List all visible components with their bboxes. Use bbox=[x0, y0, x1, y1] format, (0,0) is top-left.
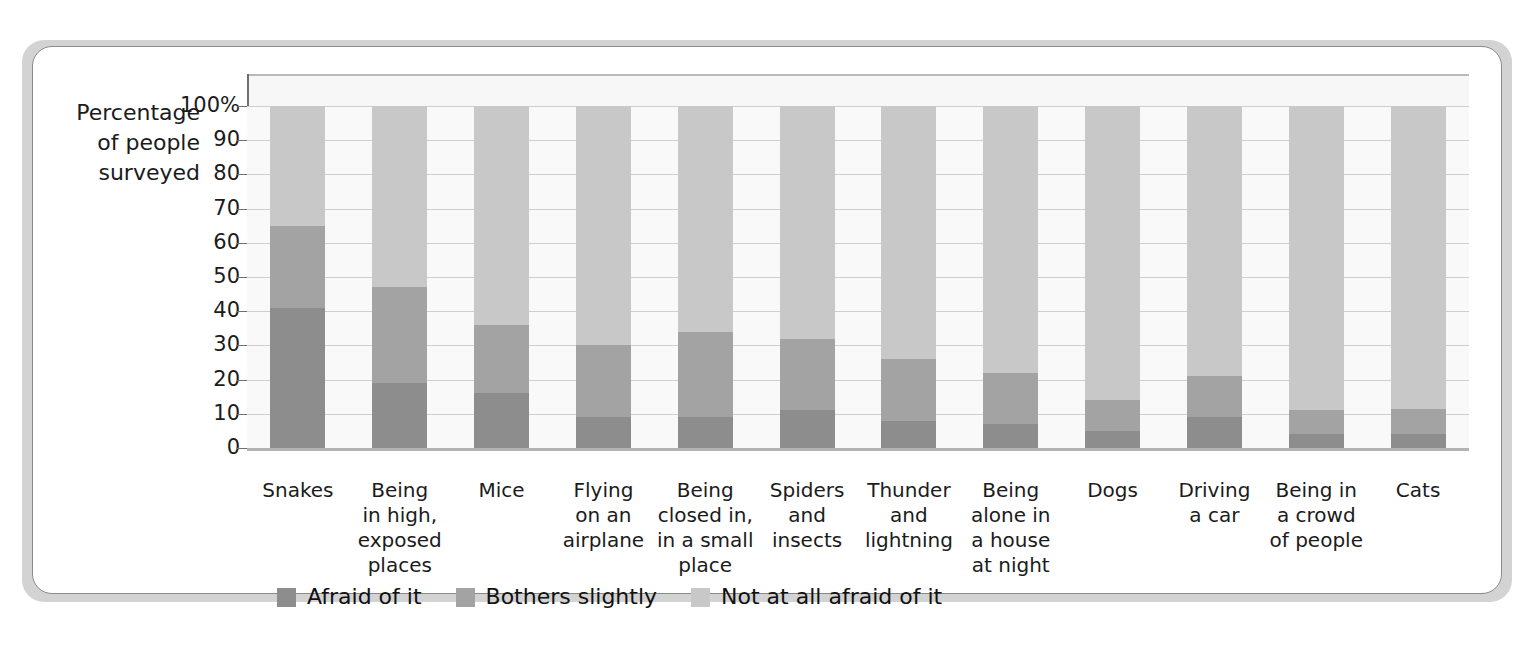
legend-item[interactable]: Bothers slightly bbox=[456, 586, 658, 608]
category-label-line: closed in, bbox=[646, 503, 764, 528]
bar-segment-afraid bbox=[474, 393, 529, 448]
stacked-bar[interactable] bbox=[1085, 106, 1140, 448]
category-label-line: airplane bbox=[545, 528, 663, 553]
plot-top-strip bbox=[247, 74, 1469, 106]
legend-item[interactable]: Afraid of it bbox=[277, 586, 422, 608]
stacked-bar[interactable] bbox=[1187, 106, 1242, 448]
category-label-line: a house bbox=[952, 528, 1070, 553]
bar-segment-not-afraid bbox=[678, 106, 733, 332]
category-label-line: Thunder bbox=[850, 478, 968, 503]
y-axis-tick-label: 70 bbox=[213, 198, 240, 219]
bar-segment-bothers-slightly bbox=[881, 359, 936, 421]
category-label-line: on an bbox=[545, 503, 663, 528]
category-label-line: Being bbox=[341, 478, 459, 503]
x-axis-category-label: Beingclosed in,in a smallplace bbox=[646, 478, 764, 578]
stacked-bar[interactable] bbox=[576, 106, 631, 448]
category-label-line: a car bbox=[1156, 503, 1274, 528]
y-axis-tick-label: 30 bbox=[213, 334, 240, 355]
x-axis-category-label: Thunderandlightning bbox=[850, 478, 968, 553]
bar-slot bbox=[654, 106, 756, 448]
bar-slot bbox=[1062, 106, 1164, 448]
stacked-bar[interactable] bbox=[270, 106, 325, 448]
bar-slot bbox=[1367, 106, 1469, 448]
bar-slot bbox=[1164, 106, 1266, 448]
bar-slot bbox=[1265, 106, 1367, 448]
bar-segment-bothers-slightly bbox=[576, 345, 631, 417]
x-axis-category-label: Cats bbox=[1359, 478, 1477, 503]
category-label-line: in a small bbox=[646, 528, 764, 553]
y-axis-tick-label: 40 bbox=[213, 300, 240, 321]
category-label-line: places bbox=[341, 553, 459, 578]
category-label-line: Cats bbox=[1359, 478, 1477, 503]
stacked-bar[interactable] bbox=[1391, 106, 1446, 448]
legend-label: Bothers slightly bbox=[486, 586, 658, 608]
bar-slot bbox=[349, 106, 451, 448]
x-axis-category-label: Being ina crowdof people bbox=[1257, 478, 1375, 553]
category-label-line: alone in bbox=[952, 503, 1070, 528]
bar-segment-afraid bbox=[1289, 434, 1344, 448]
y-axis-tick-label: 90 bbox=[213, 129, 240, 150]
category-label-line: place bbox=[646, 553, 764, 578]
y-axis-tick-labels: 0102030405060708090100% bbox=[160, 74, 240, 474]
x-axis-category-label: Dogs bbox=[1054, 478, 1172, 503]
category-label-line: insects bbox=[748, 528, 866, 553]
bar-segment-afraid bbox=[780, 410, 835, 448]
y-axis-tick-label: 20 bbox=[213, 369, 240, 390]
y-axis-tick-label: 100% bbox=[180, 95, 240, 116]
category-label-line: Dogs bbox=[1054, 478, 1172, 503]
category-label-line: Snakes bbox=[239, 478, 357, 503]
category-label-line: and bbox=[850, 503, 968, 528]
x-axis-category-label: Spidersandinsects bbox=[748, 478, 866, 553]
category-label-line: exposed bbox=[341, 528, 459, 553]
y-axis-tick-mark bbox=[237, 174, 247, 175]
stacked-bar[interactable] bbox=[1289, 106, 1344, 448]
bar-slot bbox=[756, 106, 858, 448]
bar-segment-not-afraid bbox=[1187, 106, 1242, 376]
category-label-line: and bbox=[748, 503, 866, 528]
legend-label: Not at all afraid of it bbox=[721, 586, 942, 608]
y-axis-tick-mark bbox=[237, 140, 247, 141]
x-axis-category-label: Mice bbox=[443, 478, 561, 503]
y-axis-tick-mark bbox=[237, 380, 247, 381]
bar-segment-not-afraid bbox=[983, 106, 1038, 373]
y-axis-tick-mark bbox=[237, 311, 247, 312]
bar-segment-bothers-slightly bbox=[1391, 409, 1446, 435]
chart-container: Percentageof peoplesurveyed 010203040506… bbox=[32, 46, 1502, 594]
y-axis-tick-mark bbox=[237, 209, 247, 210]
category-label-line: Spiders bbox=[748, 478, 866, 503]
bar-segment-not-afraid bbox=[474, 106, 529, 325]
x-axis-category-label: Flyingon anairplane bbox=[545, 478, 663, 553]
y-axis-tick-label: 80 bbox=[213, 163, 240, 184]
bar-segment-not-afraid bbox=[576, 106, 631, 345]
legend-item[interactable]: Not at all afraid of it bbox=[691, 586, 942, 608]
stacked-bar[interactable] bbox=[983, 106, 1038, 448]
bar-segment-afraid bbox=[1391, 434, 1446, 448]
x-axis-category-label: Snakes bbox=[239, 478, 357, 503]
bar-slot bbox=[858, 106, 960, 448]
stacked-bar[interactable] bbox=[474, 106, 529, 448]
category-label-line: lightning bbox=[850, 528, 968, 553]
stacked-bar[interactable] bbox=[372, 106, 427, 448]
chart-legend: Afraid of itBothers slightlyNot at all a… bbox=[247, 586, 942, 608]
stacked-bar[interactable] bbox=[780, 106, 835, 448]
bar-segment-afraid bbox=[1085, 431, 1140, 448]
bar-segment-not-afraid bbox=[1289, 106, 1344, 410]
bar-segment-bothers-slightly bbox=[1187, 376, 1242, 417]
category-label-line: Flying bbox=[545, 478, 663, 503]
category-label-line: at night bbox=[952, 553, 1070, 578]
bar-group bbox=[247, 106, 1469, 448]
category-label-line: of people bbox=[1257, 528, 1375, 553]
category-label-line: in high, bbox=[341, 503, 459, 528]
bar-segment-bothers-slightly bbox=[678, 332, 733, 418]
x-axis-category-label: Drivinga car bbox=[1156, 478, 1274, 528]
category-label-line: Driving bbox=[1156, 478, 1274, 503]
bar-segment-not-afraid bbox=[780, 106, 835, 339]
bar-segment-bothers-slightly bbox=[780, 339, 835, 411]
y-axis-tick-mark bbox=[237, 414, 247, 415]
stacked-bar[interactable] bbox=[881, 106, 936, 448]
bar-segment-afraid bbox=[576, 417, 631, 448]
plot-area bbox=[247, 74, 1469, 464]
legend-swatch-icon bbox=[456, 588, 475, 607]
stacked-bar[interactable] bbox=[678, 106, 733, 448]
bar-segment-not-afraid bbox=[270, 106, 325, 226]
